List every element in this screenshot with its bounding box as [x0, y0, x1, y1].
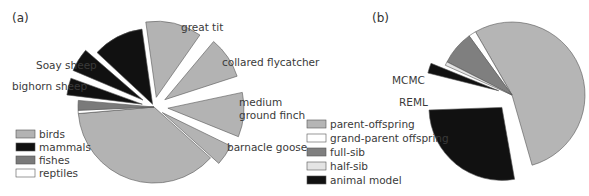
pie-slice-other-birds	[78, 107, 210, 183]
legend-item-mammals: mammals	[16, 141, 91, 153]
pie-chart-b	[428, 22, 585, 180]
legend-swatch-mammals	[16, 143, 35, 151]
annotation-ground-finch: ground finch	[239, 109, 305, 121]
legend-label-mammals: mammals	[39, 141, 91, 153]
legend-swatch-birds	[16, 130, 35, 138]
legend-item-parent-offspring: parent-offspring	[307, 118, 415, 130]
legend-item-birds: birds	[16, 128, 65, 140]
legend-swatch-reptiles	[16, 169, 35, 177]
legend-item-grand-parent-offspring: grand-parent offspring	[307, 132, 449, 144]
legend-label-birds: birds	[39, 128, 65, 140]
legend-label-full-sib: full-sib	[330, 146, 365, 158]
legend-swatch-grand-parent-offspring	[307, 134, 326, 142]
annotation-soay-sheep: Soay sheep	[36, 59, 97, 71]
annotation-collared-flycatcher: collared flycatcher	[222, 56, 320, 68]
legend-a: birds mammals fishes reptiles	[16, 128, 91, 179]
legend-label-grand-parent-offspring: grand-parent offspring	[330, 132, 449, 144]
legend-label-animal-model: animal model	[330, 174, 402, 186]
legend-item-reptiles: reptiles	[16, 167, 78, 179]
legend-item-half-sib: half-sib	[307, 160, 368, 172]
legend-label-reptiles: reptiles	[39, 167, 78, 179]
legend-item-fishes: fishes	[16, 154, 70, 166]
legend-label-parent-offspring: parent-offspring	[330, 118, 415, 130]
legend-swatch-full-sib	[307, 148, 326, 156]
panel-label-b: (b)	[372, 11, 389, 25]
legend-label-fishes: fishes	[39, 154, 70, 166]
legend-label-half-sib: half-sib	[330, 160, 368, 172]
annotation-bighorn-sheep: bighorn sheep	[12, 80, 87, 92]
annotation-reml: REML	[399, 96, 428, 108]
legend-swatch-animal-model	[307, 176, 326, 184]
annotation-medium: medium	[239, 96, 282, 108]
annotation-barnacle-goose: barnacle goose	[227, 141, 307, 153]
legend-item-animal-model: animal model	[307, 174, 402, 186]
legend-swatch-parent-offspring	[307, 120, 326, 128]
annotation-mcmc: MCMC	[392, 74, 425, 86]
pie-chart-a	[67, 21, 244, 183]
annotation-great-tit: great tit	[181, 21, 223, 33]
legend-item-full-sib: full-sib	[307, 146, 365, 158]
legend-b: parent-offspring grand-parent offspring …	[307, 118, 449, 186]
legend-swatch-half-sib	[307, 162, 326, 170]
legend-swatch-fishes	[16, 156, 35, 164]
figure: (a) (b) great tit collared flycatcher me…	[0, 0, 589, 196]
panel-label-a: (a)	[12, 11, 29, 25]
